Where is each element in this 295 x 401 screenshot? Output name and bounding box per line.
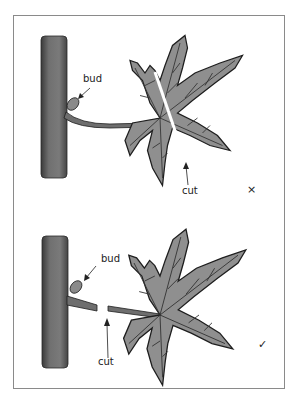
pruning-illustration	[0, 0, 295, 401]
cut-arrow-icon-2	[104, 318, 110, 326]
leaf-1	[125, 36, 243, 186]
petiole-stub	[67, 296, 97, 311]
incorrect-mark-icon: ×	[247, 184, 256, 195]
bud-label-2: bud	[101, 254, 120, 264]
correct-mark-icon: ✓	[258, 339, 267, 350]
cut-label-2: cut	[98, 357, 114, 367]
bud-arrow-icon-2	[84, 274, 90, 281]
bud-label-1: bud	[83, 74, 102, 84]
main-stem-2	[42, 236, 68, 368]
leaf-2	[124, 229, 246, 385]
bud-2	[68, 278, 85, 295]
cut-label-1: cut	[182, 186, 198, 196]
cut-arrow-icon-1	[183, 162, 189, 169]
panel-correct	[42, 229, 246, 385]
panel-incorrect	[41, 36, 243, 186]
main-stem-1	[41, 36, 67, 178]
